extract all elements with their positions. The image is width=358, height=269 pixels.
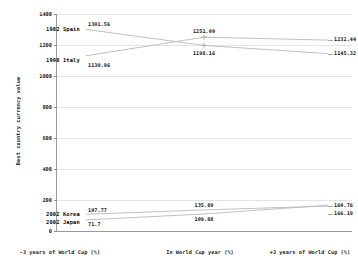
point-label-italy-2: 1232.44	[334, 36, 356, 42]
point-label-italy-0: 1130.96	[88, 62, 110, 68]
point-label-korea-0: 107.77	[88, 207, 107, 213]
marker-italy-mid	[201, 34, 207, 40]
ytick-label-200: 200	[42, 197, 52, 203]
point-label-spain-0: 1301.56	[88, 21, 110, 27]
leader-spain-2	[328, 54, 333, 55]
point-label-japan-1: 109.88	[194, 216, 213, 222]
x-axis-label-0: -3 years of World Cup (%)	[20, 249, 101, 255]
series-label-italy: 1990 Italy	[46, 57, 80, 63]
ytick-label-0: 0	[49, 228, 52, 234]
point-label-korea-2: 160.76	[334, 202, 353, 208]
x-axis-label-1: In World Cup year (%)	[166, 249, 234, 255]
leader-italy-2	[328, 40, 333, 41]
ytick-label-800: 800	[42, 104, 52, 110]
point-label-japan-2: 166.19	[334, 210, 353, 216]
ytick-label-600: 600	[42, 135, 52, 141]
ytick-label-1400: 1400	[39, 11, 52, 17]
series-lines	[56, 14, 352, 232]
y-axis-title: Best country currency value	[15, 51, 21, 191]
ytick-label-1200: 1200	[39, 42, 52, 48]
x-axis-label-2: +3 years of World Cup (%)	[270, 249, 351, 255]
leader-korea-2	[328, 206, 333, 207]
ytick-label-400: 400	[42, 166, 52, 172]
ytick-label-1000: 1000	[39, 73, 52, 79]
marker-spain-mid	[201, 42, 207, 48]
leader-japan-2	[328, 214, 333, 215]
point-label-japan-0: 71.7	[88, 221, 101, 227]
point-label-spain-1: 1198.16	[193, 50, 215, 56]
point-label-italy-1: 1251.09	[193, 28, 215, 34]
series-label-spain: 1982 Spain	[46, 26, 80, 32]
series-label-korea: 2002 Korea	[46, 211, 80, 217]
point-label-spain-2: 1145.32	[334, 50, 356, 56]
point-label-korea-1: 135.89	[194, 202, 213, 208]
plot-area: 1400 1200 1000 800 600 400 200 0	[56, 14, 352, 232]
line-chart: Best country currency value 1400 1200 10…	[0, 0, 358, 269]
series-label-japan: 2002 Japan	[46, 219, 80, 225]
